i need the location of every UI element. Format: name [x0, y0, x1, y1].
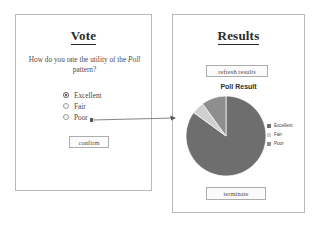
legend-swatch-icon — [267, 124, 271, 128]
legend-item-label: Excellent — [274, 123, 293, 128]
poll-question-prefix: How do you rate the utility of the — [29, 55, 128, 64]
radio-option-label: Excellent — [74, 91, 102, 100]
radio-button-icon[interactable] — [63, 103, 69, 109]
diagram-canvas: Vote How do you rate the utility of the … — [0, 0, 324, 238]
legend-swatch-icon — [267, 133, 271, 137]
connector-line — [92, 118, 175, 120]
poll-result-pie-chart — [185, 95, 267, 177]
chart-title: Poll Result — [173, 83, 304, 90]
vote-panel-title-text: Vote — [71, 28, 97, 45]
poll-question-suffix: pattern? — [73, 65, 97, 74]
legend-item-excellent: Excellent — [267, 121, 307, 130]
radio-option-label: Poor — [74, 113, 88, 122]
radio-button-icon[interactable] — [63, 92, 69, 98]
legend-item-label: Fair — [274, 132, 282, 137]
vote-panel: Vote How do you rate the utility of the … — [15, 14, 152, 191]
flow-connector-arrow — [90, 113, 182, 135]
legend-item-label: Poor — [274, 141, 284, 146]
results-panel-title: Results — [173, 28, 304, 44]
poll-question-emphasis: Poll — [128, 55, 140, 64]
legend-item-fair: Fair — [267, 130, 307, 139]
pie-chart-svg — [185, 95, 267, 177]
terminate-button[interactable]: terminate — [206, 187, 266, 200]
poll-question: How do you rate the utility of the Poll … — [25, 55, 144, 74]
refresh-results-button[interactable]: refresh results — [206, 65, 268, 77]
chart-legend: Excellent Fair Poor — [267, 121, 307, 148]
radio-option-label: Fair — [74, 102, 86, 111]
radio-option-fair[interactable]: Fair — [63, 101, 147, 111]
results-panel: Results refresh results Poll Result Exce… — [172, 14, 305, 213]
pie-slices — [186, 96, 266, 176]
radio-button-icon[interactable] — [63, 114, 69, 120]
vote-panel-title: Vote — [16, 28, 151, 44]
radio-option-excellent[interactable]: Excellent — [63, 90, 147, 100]
legend-swatch-icon — [267, 142, 271, 146]
legend-item-poor: Poor — [267, 139, 307, 148]
results-panel-title-text: Results — [218, 28, 260, 45]
confirm-button[interactable]: confirm — [69, 136, 109, 148]
